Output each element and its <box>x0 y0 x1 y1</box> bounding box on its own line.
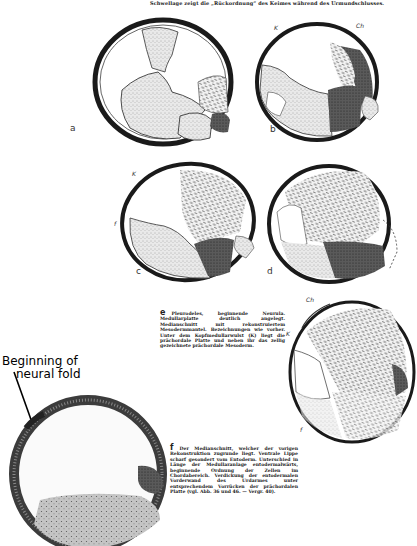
figure-label-c: c <box>136 266 141 276</box>
figure-c-mark-f: f <box>114 220 116 227</box>
figure-a: a <box>60 20 230 160</box>
figure-b-mark-k: K <box>274 24 278 31</box>
figure-b-mark-ch: Ch <box>356 22 364 29</box>
figure-label-b: b <box>270 124 276 134</box>
figure-c-mark-k: K <box>132 170 136 177</box>
figure-label-d: d <box>267 266 273 276</box>
figure-e-mark-ch: Ch <box>306 296 314 303</box>
figure-f <box>0 390 170 546</box>
caption-e-text: Pleurodeles, beginnende Neurula. Medulla… <box>160 311 285 348</box>
figure-d: d <box>265 160 405 290</box>
figure-e: Ch K f <box>280 292 417 457</box>
embryo-drawing-c <box>90 160 265 290</box>
page-header-text: Schwellage zeigt die „Rückordnung“ des K… <box>150 0 417 6</box>
embryo-drawing-a <box>60 20 230 160</box>
caption-f-text: Der Medianschnitt, welcher der vorigen R… <box>170 446 298 494</box>
embryo-drawing-b <box>220 20 380 160</box>
figure-label-a: a <box>70 123 76 133</box>
caption-f: fDer Medianschnitt, welcher der vorigen … <box>170 445 298 495</box>
caption-e: ePleurodeles, beginnende Neurula. Medull… <box>160 310 285 349</box>
figure-c: c K f <box>90 160 265 290</box>
embryo-section-f <box>0 390 170 546</box>
figure-b: b K Ch <box>220 20 380 160</box>
embryo-drawing-d <box>265 160 405 290</box>
figure-e-mark-f: f <box>300 426 302 433</box>
figure-e-mark-k: K <box>286 330 290 337</box>
